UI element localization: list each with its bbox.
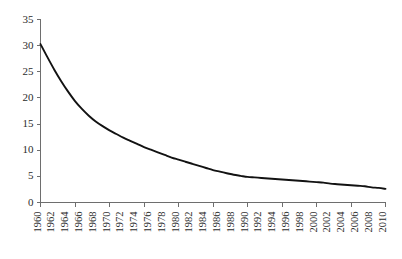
x-tick-label: 2010 (377, 212, 388, 233)
x-tick-label: 1974 (128, 211, 139, 233)
series-group (41, 44, 386, 189)
x-tick-label: 1984 (197, 211, 208, 233)
x-tick-label: 1990 (239, 212, 250, 233)
line-chart: 05101520253035 1960196219641966196819701… (0, 0, 402, 259)
x-tick-label: 1982 (183, 212, 194, 233)
x-axis-tick-labels: 1960196219641966196819701972197419761978… (32, 211, 388, 233)
x-tick-label: 2000 (308, 212, 319, 233)
x-tick-label: 1960 (32, 212, 43, 233)
y-tick-label: 35 (23, 13, 35, 25)
x-tick-label: 1998 (294, 212, 305, 233)
x-tick-label: 1988 (225, 212, 236, 233)
y-tick-label: 15 (23, 117, 35, 129)
x-tick-label: 1996 (280, 212, 291, 233)
x-tick-label: 1968 (87, 212, 98, 233)
y-tick-label: 25 (23, 65, 35, 77)
y-axis-tick-labels: 05101520253035 (23, 13, 35, 208)
x-tick-label: 1972 (114, 212, 125, 233)
x-tick-label: 1966 (73, 212, 84, 233)
x-tick-label: 1978 (156, 212, 167, 233)
x-tick-label: 1962 (45, 212, 56, 233)
y-axis-tick-marks (37, 20, 41, 203)
x-tick-label: 1976 (142, 212, 153, 233)
x-tick-label: 1992 (252, 212, 263, 233)
x-tick-label: 1964 (59, 211, 70, 233)
chart-canvas: 05101520253035 1960196219641966196819701… (0, 0, 402, 259)
y-tick-label: 30 (23, 39, 35, 51)
y-tick-label: 5 (28, 169, 34, 181)
x-tick-label: 1994 (266, 211, 277, 233)
x-tick-label: 1980 (170, 212, 181, 233)
series-line (41, 44, 386, 189)
x-axis-tick-marks (41, 203, 386, 207)
x-tick-label: 2008 (363, 212, 374, 233)
y-tick-label: 20 (23, 91, 35, 103)
x-tick-label: 1970 (101, 212, 112, 233)
y-tick-label: 0 (28, 196, 34, 208)
y-tick-label: 10 (23, 143, 35, 155)
x-tick-label: 2002 (321, 212, 332, 233)
x-tick-label: 2006 (349, 212, 360, 233)
x-tick-label: 2004 (335, 211, 346, 233)
x-tick-label: 1986 (211, 212, 222, 233)
